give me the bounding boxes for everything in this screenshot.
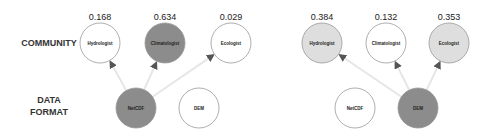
community-node-climatologist[interactable]: Climatologist bbox=[366, 23, 406, 63]
probability-value: 0.168 bbox=[89, 12, 112, 22]
format-node-netcdf[interactable]: NetCDF bbox=[116, 88, 156, 128]
community-node-hydrologist[interactable]: Hydrologist bbox=[80, 23, 120, 63]
format-node-dem[interactable]: DEM bbox=[398, 88, 438, 128]
probability-value: 0.029 bbox=[220, 12, 243, 22]
format-node-netcdf[interactable]: NetCDF bbox=[335, 88, 375, 128]
node-label: Climatologist bbox=[151, 41, 180, 46]
edge-arrow bbox=[427, 62, 440, 90]
community-node-hydrologist[interactable]: Hydrologist bbox=[302, 23, 342, 63]
node-label: DEM bbox=[194, 106, 204, 111]
node-label: Ecologist bbox=[439, 41, 460, 46]
community-node-climatologist[interactable]: Climatologist bbox=[145, 23, 185, 63]
edge-arrow bbox=[395, 62, 409, 90]
probability-value: 0.353 bbox=[438, 12, 461, 22]
node-label: Ecologist bbox=[221, 41, 242, 46]
probability-value: 0.132 bbox=[375, 12, 398, 22]
node-label: Climatologist bbox=[372, 41, 401, 46]
edge-arrow bbox=[110, 61, 126, 90]
panel-2: Hydrologist0.384Climatologist0.132Ecolog… bbox=[302, 12, 469, 128]
format-node-dem[interactable]: DEM bbox=[179, 88, 219, 128]
panel-1: Hydrologist0.168Climatologist0.634Ecolog… bbox=[80, 12, 251, 128]
node-label: Hydrologist bbox=[87, 41, 113, 46]
edge-arrow bbox=[144, 62, 156, 90]
node-label: NetCDF bbox=[128, 106, 145, 111]
probability-value: 0.634 bbox=[154, 12, 177, 22]
node-label: Hydrologist bbox=[309, 41, 335, 46]
community-format-diagram: Hydrologist0.168Climatologist0.634Ecolog… bbox=[0, 0, 486, 137]
node-label: NetCDF bbox=[347, 106, 364, 111]
community-node-ecologist[interactable]: Ecologist bbox=[211, 23, 251, 63]
node-label: DEM bbox=[413, 106, 423, 111]
probability-value: 0.384 bbox=[311, 12, 334, 22]
community-node-ecologist[interactable]: Ecologist bbox=[429, 23, 469, 63]
